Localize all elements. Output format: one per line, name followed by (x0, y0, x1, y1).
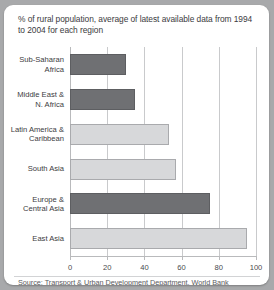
bar-category-label: Europe & Central Asia (4, 194, 64, 213)
bar-sub-saharan-africa (70, 54, 126, 75)
tick-mark-100 (256, 256, 257, 260)
tick-mark-0 (70, 256, 71, 260)
tick-mark-60 (182, 256, 183, 260)
bar-row: Sub-Saharan Africa (70, 47, 256, 82)
x-tick-label: 40 (140, 263, 148, 272)
bar-row: East Asia (70, 221, 256, 256)
chart-card: % of rural population, average of latest… (4, 5, 269, 285)
x-tick-label: 100 (250, 263, 263, 272)
tick-mark-80 (219, 256, 220, 260)
x-tick-label: 60 (177, 263, 185, 272)
x-tick-label: 20 (103, 263, 111, 272)
x-tick-label: 0 (68, 263, 72, 272)
bar-category-label: East Asia (4, 234, 64, 243)
bar-row: South Asia (70, 152, 256, 187)
bar-europe-central-asia (70, 193, 210, 214)
bar-middle-east-n-africa (70, 89, 135, 110)
gridline-100 (256, 47, 257, 256)
chart-title: % of rural population, average of latest… (18, 14, 256, 36)
bar-latin-america-caribbean (70, 124, 169, 145)
plot-area: Sub-Saharan Africa Middle East & N. Afri… (70, 47, 256, 256)
bar-category-label: Sub-Saharan Africa (4, 55, 64, 74)
bar-east-asia (70, 228, 247, 249)
bar-category-label: Middle East & N. Africa (4, 90, 64, 109)
bar-row: Latin America & Caribbean (70, 117, 256, 152)
tick-mark-40 (144, 256, 145, 260)
x-axis-line (70, 256, 256, 257)
bar-row: Europe & Central Asia (70, 186, 256, 221)
tick-mark-20 (107, 256, 108, 260)
bar-south-asia (70, 159, 176, 180)
bar-row: Middle East & N. Africa (70, 82, 256, 117)
bar-category-label: South Asia (4, 164, 64, 173)
source-divider (14, 276, 260, 277)
x-tick-label: 80 (215, 263, 223, 272)
bar-category-label: Latin America & Caribbean (4, 125, 64, 144)
source-note: Source: Transport & Urban Development De… (18, 278, 229, 285)
